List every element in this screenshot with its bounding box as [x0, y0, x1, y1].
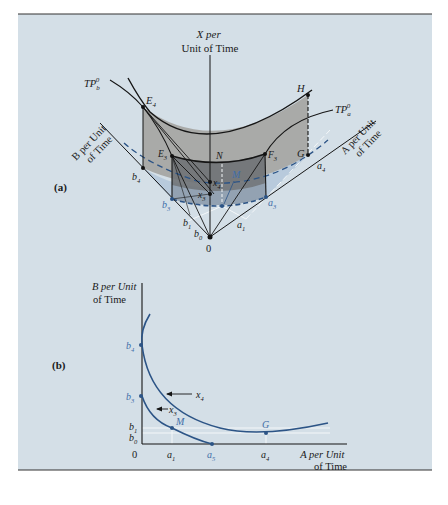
panel-b-label: (b): [52, 359, 66, 372]
label-g: G: [297, 148, 305, 159]
point-m-b: [170, 426, 174, 430]
point-h: [306, 93, 310, 97]
point-g: [306, 153, 310, 157]
label-n: N: [215, 150, 224, 161]
label-h: H: [296, 83, 306, 94]
point-b3: [170, 197, 174, 201]
label-g-b: G: [262, 419, 269, 430]
label-m-b: M: [175, 416, 185, 427]
point-origin: [208, 235, 213, 240]
point-b4-b: [139, 343, 143, 347]
point-x3: [208, 192, 212, 196]
point-e3: [170, 154, 174, 158]
point-a5-b: [210, 442, 214, 446]
production-surface-figure: (a) X per Unit of Time B per Unit of Tim…: [0, 0, 448, 505]
label-m: M: [231, 169, 241, 180]
panel-a-label: (a): [54, 181, 67, 194]
tick-origin: 0: [132, 449, 137, 460]
point-g-b: [264, 431, 268, 435]
panel-background: [18, 14, 432, 470]
label-origin-a: 0: [206, 243, 211, 254]
point-m: [220, 204, 224, 208]
point-b3-b: [139, 394, 143, 398]
point-e4: [141, 105, 145, 109]
point-f3: [263, 152, 267, 156]
point-x4: [208, 180, 212, 184]
point-b4: [141, 166, 145, 170]
